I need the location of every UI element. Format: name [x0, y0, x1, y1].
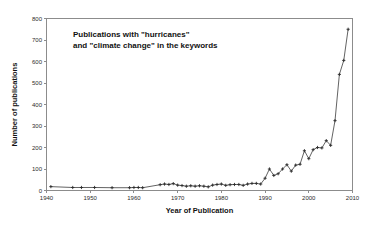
x-axis-title: Year of Publication [166, 206, 234, 215]
y-tick-label: 100 [32, 166, 43, 172]
y-tick-label: 200 [32, 145, 43, 151]
x-tick-label: 2010 [346, 195, 360, 201]
y-tick-label: 700 [32, 37, 43, 43]
x-tick-label: 1970 [171, 195, 185, 201]
y-tick-label: 400 [32, 102, 43, 108]
x-tick-label: 1950 [84, 195, 98, 201]
chart-annotation-line-2: and "climate change" in the keywords [73, 41, 218, 50]
x-tick-label: 1960 [127, 195, 141, 201]
x-tick-label: 2000 [302, 195, 316, 201]
x-tick-label: 1940 [40, 195, 54, 201]
publications-line-chart: 0100200300400500600700800 19401950196019… [0, 0, 376, 226]
y-axis-title: Number of publications [10, 63, 19, 147]
chart-annotation-line-1: Publications with "hurricanes" [73, 30, 190, 39]
x-tick-label: 1990 [258, 195, 272, 201]
chart-figure: 0100200300400500600700800 19401950196019… [0, 0, 376, 226]
y-tick-label: 800 [32, 16, 43, 22]
x-tick-label: 1980 [215, 195, 229, 201]
y-tick-label: 600 [32, 59, 43, 65]
y-tick-label: 500 [32, 80, 43, 86]
y-tick-label: 300 [32, 123, 43, 129]
